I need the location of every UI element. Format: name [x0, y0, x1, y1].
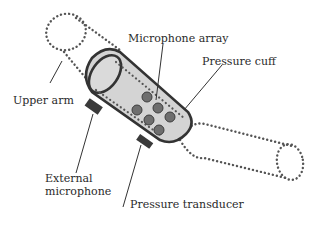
label-pressure-cuff: Pressure cuff [202, 55, 276, 68]
label-pressure-transducer: Pressure transducer [130, 198, 244, 211]
label-external-microphone-line2: microphone [45, 185, 111, 198]
microphone-icon [142, 92, 152, 102]
microphone-icon [132, 105, 142, 115]
microphone-icon [154, 125, 164, 135]
label-external-microphone-line1: External [45, 172, 93, 185]
external-microphone-pad [85, 98, 103, 115]
microphone-icon [144, 115, 154, 125]
label-microphone-array: Microphone array [128, 32, 229, 45]
pressure-transducer-pad [136, 134, 153, 149]
forearm-outline [174, 124, 306, 182]
microphone-icon [153, 103, 163, 113]
pressure-cuff [82, 49, 191, 142]
label-upper-arm: Upper arm [13, 94, 74, 107]
microphone-icon [165, 112, 175, 122]
